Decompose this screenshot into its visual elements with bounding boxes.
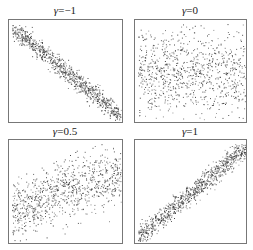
gamma-value: =1 xyxy=(186,125,198,137)
panel-title-gamma-0-5: γ=0.5 xyxy=(5,125,125,137)
panel-title-gamma-1: γ=1 xyxy=(130,125,250,137)
panel-title-gamma-0: γ=0 xyxy=(130,4,250,16)
scatter-panel-gamma-0 xyxy=(134,19,247,123)
gamma-value: =−1 xyxy=(58,4,76,16)
gamma-value: =0.5 xyxy=(57,125,77,137)
scatter-plot xyxy=(9,140,124,245)
scatter-plot xyxy=(9,20,124,124)
gamma-value: =0 xyxy=(186,4,198,16)
scatter-panel-gamma-neg1 xyxy=(8,19,123,123)
scatter-panel-gamma-0-5 xyxy=(8,139,123,244)
panel-title-gamma-neg1: γ=−1 xyxy=(5,4,125,16)
scatter-plot xyxy=(135,140,248,245)
scatter-panel-gamma-1 xyxy=(134,139,247,244)
scatter-plot xyxy=(135,20,248,124)
